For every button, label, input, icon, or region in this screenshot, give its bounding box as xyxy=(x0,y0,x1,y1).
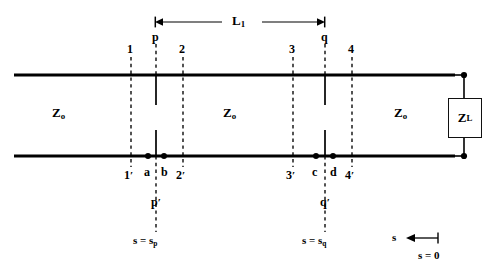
plane-label-p-bottom-prime: ′ xyxy=(158,196,161,208)
plane-label-2-bottom-prime: ′ xyxy=(182,169,185,181)
terminal-dot-a xyxy=(145,153,151,159)
plane-label-p-top: p xyxy=(152,31,159,43)
dimension-arrowhead-left xyxy=(155,18,163,26)
transmission-line-diagram: ZL Zo Zo Zo L1 1 p 2 3 q 4 1′ 2′ 3′ 4′ p… xyxy=(0,0,492,270)
plane-label-3-top: 3 xyxy=(289,43,295,55)
impedance-label-middle-section: Zo xyxy=(223,106,236,121)
dimension-label-subscript: 1 xyxy=(241,19,245,29)
impedance-symbol-right: Z xyxy=(394,105,403,120)
position-marker-s-equals-sp: s = sp xyxy=(133,235,158,248)
plane-label-4-bottom-prime: ′ xyxy=(351,169,354,181)
s-axis-arrowhead xyxy=(406,234,415,242)
plane-label-4-bottom: 4′ xyxy=(345,169,354,181)
terminal-dot-c xyxy=(313,153,319,159)
plane-label-4-top: 4 xyxy=(348,43,354,55)
s-axis-label: s xyxy=(392,232,396,243)
plane-label-2-top: 2 xyxy=(179,43,185,55)
position-marker-s-equals-sq: s = sq xyxy=(302,235,327,248)
terminal-dot-b xyxy=(161,153,167,159)
plane-label-q-top: q xyxy=(321,31,328,43)
dimension-label-L1: L1 xyxy=(232,14,245,29)
impedance-label-right-section: Zo xyxy=(394,106,407,121)
load-top-node-dot xyxy=(461,72,467,78)
impedance-subscript-right: o xyxy=(403,111,407,121)
position-marker-sq-text: s = s xyxy=(302,234,322,246)
terminal-label-d: d xyxy=(330,166,337,178)
terminal-label-a: a xyxy=(144,166,150,178)
dimension-label-symbol: L xyxy=(232,13,241,28)
plane-label-1-bottom-prime: ′ xyxy=(130,169,133,181)
impedance-label-left-section: Zo xyxy=(52,106,65,121)
terminal-label-c: c xyxy=(312,166,317,178)
plane-label-3-bottom: 3′ xyxy=(286,169,295,181)
plane-label-p-bottom: p′ xyxy=(151,196,161,208)
plane-label-q-bottom-prime: ′ xyxy=(327,196,330,208)
impedance-symbol-left: Z xyxy=(52,105,61,120)
position-marker-sp-text: s = s xyxy=(133,234,153,246)
terminal-dot-d xyxy=(330,153,336,159)
plane-label-1-bottom: 1′ xyxy=(124,169,133,181)
plane-label-2-bottom: 2′ xyxy=(176,169,185,181)
load-impedance-subscript: L xyxy=(466,113,472,123)
impedance-symbol-middle: Z xyxy=(223,105,232,120)
load-bottom-node-dot xyxy=(461,153,467,159)
position-marker-s-equals-zero: s = 0 xyxy=(418,250,440,261)
impedance-subscript-middle: o xyxy=(232,111,236,121)
plane-label-3-bottom-prime: ′ xyxy=(292,169,295,181)
dimension-arrowhead-right xyxy=(317,18,325,26)
position-marker-sq-subscript: q xyxy=(322,239,326,248)
plane-label-1-top: 1 xyxy=(127,43,133,55)
diagram-canvas xyxy=(0,0,492,270)
load-impedance-symbol: Z xyxy=(458,110,467,126)
position-marker-sp-subscript: p xyxy=(153,239,157,248)
plane-label-q-bottom-text: q xyxy=(320,195,327,209)
impedance-subscript-left: o xyxy=(61,111,65,121)
terminal-label-b: b xyxy=(161,166,168,178)
plane-label-q-bottom: q′ xyxy=(320,196,330,208)
load-impedance-box: ZL xyxy=(448,98,482,138)
plane-label-p-bottom-text: p xyxy=(151,195,158,209)
